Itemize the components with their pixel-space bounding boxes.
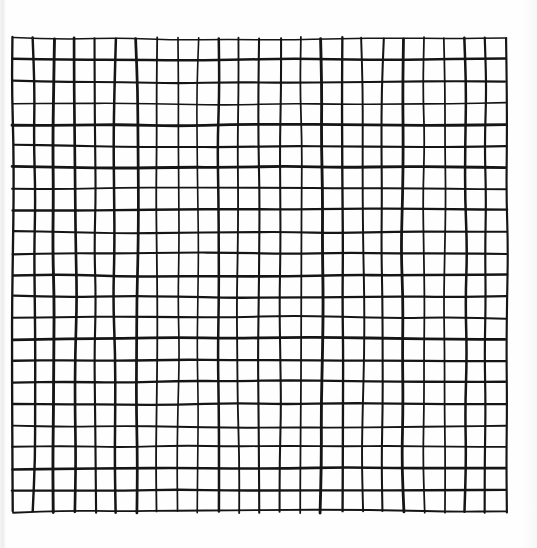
grid-horizontal-line [12, 166, 505, 168]
grid-horizontal-line [14, 145, 506, 147]
artwork-canvas [0, 0, 537, 548]
grid-horizontal-line [12, 124, 506, 125]
hand-drawn-grid [0, 0, 537, 548]
grid-horizontal-line [13, 59, 506, 61]
grid-vertical-line [218, 38, 219, 511]
grid-vertical-line [177, 38, 179, 511]
grid-vertical-line [280, 38, 281, 511]
grid-horizontal-line [14, 360, 506, 361]
grid-horizontal-line [13, 275, 507, 277]
grid-horizontal-line [13, 231, 506, 233]
grid-horizontal-line [13, 253, 507, 255]
grid-horizontal-line [13, 209, 507, 211]
grid-horizontal-line [14, 296, 507, 298]
grid-horizontal-line [12, 446, 506, 447]
grid-horizontal-line [14, 403, 506, 405]
grid-horizontal-line [13, 468, 506, 470]
grid-vertical-line [156, 37, 157, 511]
grid-horizontal-line [12, 490, 505, 491]
